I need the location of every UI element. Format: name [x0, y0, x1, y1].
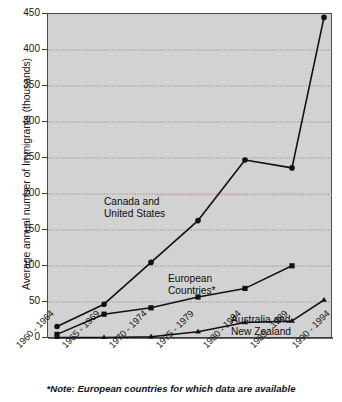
y-tick-150: 150	[10, 224, 40, 234]
annotation-canada-line-1: Canada and	[104, 196, 165, 208]
y-tick-100: 100	[10, 260, 40, 270]
y-tick-250: 250	[10, 152, 40, 162]
annotation-europe-line-2: Countries*	[168, 285, 216, 297]
chart-footnote: *Note: European countries for which data…	[0, 383, 342, 394]
plot-area: Canada and United States European Countr…	[47, 13, 332, 338]
y-tick-450: 450	[10, 8, 40, 18]
annotation-canada-united-states: Canada and United States	[104, 196, 165, 219]
annotation-european-countries: European Countries*	[168, 273, 216, 296]
y-tick-300: 300	[10, 116, 40, 126]
y-tick-400: 400	[10, 44, 40, 54]
annotation-europe-line-1: European	[168, 273, 216, 285]
annotation-canada-line-2: United States	[104, 208, 165, 220]
y-tick-350: 350	[10, 80, 40, 90]
immigration-line-chart: Average annual number of Immigrants (tho…	[0, 0, 342, 402]
y-tick-50: 50	[10, 296, 40, 306]
y-tick-200: 200	[10, 188, 40, 198]
